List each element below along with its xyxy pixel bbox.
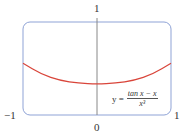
plot-area xyxy=(0,0,186,136)
y-max-label: 1 xyxy=(94,3,100,14)
x-min-label: −1 xyxy=(4,110,16,121)
equation-denominator: x³ xyxy=(139,99,145,108)
equation-annotation: y = tan x − x x³ xyxy=(112,89,158,108)
equation-lhs: y = xyxy=(112,94,124,104)
equation-numerator: tan x − x xyxy=(127,89,158,99)
x-zero-label: 0 xyxy=(94,122,100,133)
x-max-label: 1 xyxy=(174,110,180,121)
equation-fraction: tan x − x x³ xyxy=(127,89,158,108)
